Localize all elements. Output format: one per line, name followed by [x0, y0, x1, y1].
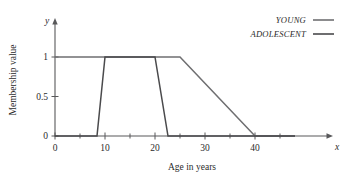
x-tick-label: 10 [100, 143, 110, 153]
y-axis-title: Membership value [8, 45, 18, 116]
fuzzy-membership-chart: 00.51 010203040 y x Age in years Members… [0, 0, 347, 178]
x-tick-label: 20 [150, 143, 160, 153]
x-tick-label: 0 [53, 143, 58, 153]
legend-label-young: YOUNG [276, 15, 307, 25]
series-line-adolescent [55, 57, 295, 136]
legend: YOUNGADOLESCENT [250, 15, 334, 39]
x-tick-label: 40 [250, 143, 260, 153]
x-axis-symbol: x [334, 142, 340, 152]
y-tick-label: 1 [43, 52, 48, 62]
y-tick-label: 0.5 [36, 92, 48, 102]
y-tick-label: 0 [43, 131, 48, 141]
y-axis-arrow-icon [52, 18, 57, 25]
x-tick-label: 30 [200, 143, 210, 153]
chart-canvas: 00.51 010203040 y x Age in years Members… [0, 0, 347, 178]
x-tick-label-group: 010203040 [53, 143, 260, 153]
x-axis-arrow-icon [327, 133, 334, 138]
y-axis-symbol: y [44, 16, 50, 26]
series-group [55, 57, 295, 136]
x-axis-title: Age in years [168, 162, 216, 172]
legend-label-adolescent: ADOLESCENT [250, 29, 308, 39]
series-line-young [55, 57, 295, 136]
y-tick-label-group: 00.51 [36, 52, 48, 141]
